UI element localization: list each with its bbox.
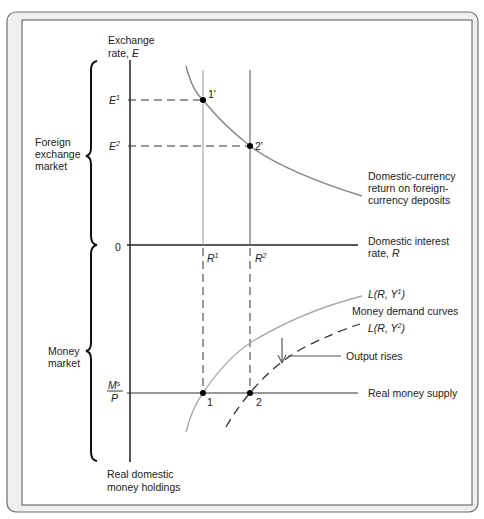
point-2-prime-label: 2'	[255, 140, 263, 152]
money-market-label-line2: market	[48, 357, 80, 369]
fx-money-market-diagram: Exchange rate, E 0 Foreign exchange mark…	[0, 0, 484, 519]
point-1-prime-label: 1'	[208, 88, 216, 100]
vertical-axis-label-line1: Exchange	[108, 34, 155, 46]
money-demand-label: Money demand curves	[352, 305, 458, 317]
foreign-return-label-line2: return on foreign-	[368, 182, 449, 194]
vertical-axis-label-line2-text: rate, E	[108, 47, 140, 59]
output-rises-label: Output rises	[346, 350, 403, 362]
vertical-axis-label-line2: rate, E	[108, 47, 140, 59]
fx-market-label-line1: Foreign	[35, 136, 71, 148]
interest-axis-label-line2: rate, R	[368, 247, 400, 259]
origin-label: 0	[115, 241, 121, 253]
interest-axis-label-line1: Domestic interest	[368, 235, 449, 247]
point-2-prime	[247, 143, 253, 149]
bottom-axis-label-line1: Real domestic	[107, 468, 174, 480]
tick-Ms-denominator: P	[111, 392, 118, 404]
money-market-label-line1: Money	[48, 345, 80, 357]
point-2	[247, 390, 253, 396]
point-1-prime	[200, 97, 206, 103]
diagram-svg: Exchange rate, E 0 Foreign exchange mark…	[0, 0, 484, 519]
foreign-return-label-line1: Domestic-currency	[368, 170, 456, 182]
fx-market-label-line2: exchange	[35, 148, 81, 160]
fx-market-label-line3: market	[35, 160, 67, 172]
point-1	[200, 390, 206, 396]
foreign-return-label-line3: currency deposits	[368, 194, 450, 206]
point-1-label: 1	[207, 396, 213, 408]
bottom-axis-label-line2: money holdings	[107, 481, 181, 493]
point-2-label: 2	[256, 396, 262, 408]
real-money-supply-label: Real money supply	[368, 387, 458, 399]
inner-panel	[22, 20, 472, 505]
